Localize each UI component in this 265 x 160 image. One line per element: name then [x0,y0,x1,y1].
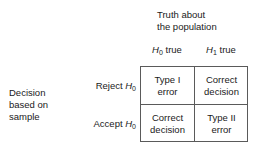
hypothesis-testing-decision-figure: Truth about the population H0 true H1 tr… [0,0,265,160]
column-group-heading: Truth about the population [157,9,262,33]
column-header-1-suffix: true [217,44,236,55]
row-header-1-verb: Accept [94,118,126,129]
column-header-0-suffix: true [163,44,182,55]
row-header-0-verb: Reject [96,80,126,91]
column-header-h1-true: H1 true [194,44,248,59]
decision-table-grid: Type I error Correct decision Correct de… [140,66,248,142]
column-header-0-symbol: H [152,44,159,55]
table-cell-type-ii-error: Type II error [195,105,248,142]
row-header-0-subscript: 0 [132,85,136,92]
row-header-reject-h0: Reject H0 [72,80,136,95]
row-group-heading: Decision based on sample [9,87,71,123]
table-cell-correct-decision-top: Correct decision [195,67,248,104]
column-header-1-symbol: H [206,44,213,55]
table-cell-type-i-error: Type I error [141,67,194,104]
table-cell-correct-decision-bottom: Correct decision [141,105,194,142]
column-header-h0-true: H0 true [140,44,194,59]
row-header-1-subscript: 0 [132,123,136,130]
row-header-accept-h0: Accept H0 [72,118,136,133]
